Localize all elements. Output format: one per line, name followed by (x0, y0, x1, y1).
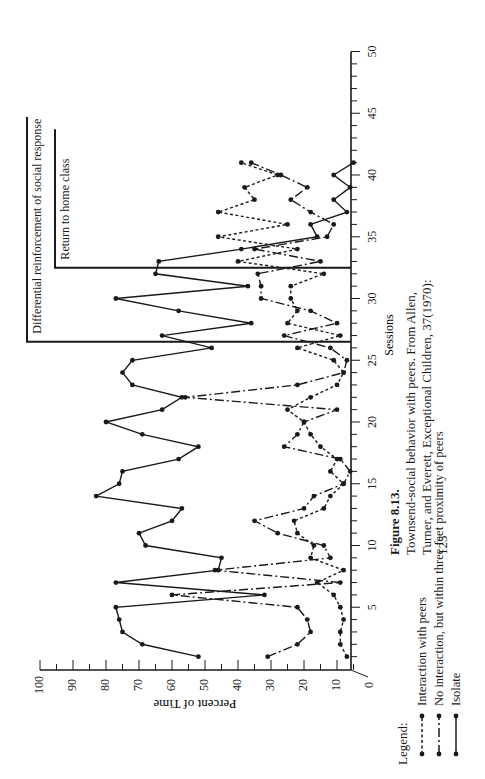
data-point (216, 210, 221, 215)
data-point (295, 432, 300, 437)
data-point (120, 370, 125, 375)
data-point (335, 383, 340, 388)
data-point (295, 383, 300, 388)
data-point (246, 284, 251, 289)
data-point (308, 395, 313, 400)
data-point (114, 605, 119, 610)
legend-marker (420, 752, 425, 757)
x-tick-label: 45 (365, 107, 379, 119)
data-point (318, 444, 323, 449)
data-point (219, 555, 224, 560)
y-axis-label: Percent of Time (153, 697, 236, 712)
data-point (130, 383, 135, 388)
data-point (176, 457, 181, 462)
x-tick-label: 25 (365, 354, 379, 366)
data-point (130, 358, 135, 363)
data-point (153, 271, 158, 276)
data-point (295, 531, 300, 536)
data-point (216, 234, 221, 239)
data-point (196, 444, 201, 449)
data-point (328, 469, 333, 474)
data-point (338, 580, 343, 585)
data-point (285, 222, 290, 227)
data-point (176, 308, 181, 313)
data-point (338, 333, 343, 338)
data-point (236, 259, 241, 264)
data-point (328, 494, 333, 499)
y-tick-label: 90 (65, 679, 79, 691)
data-point (282, 333, 287, 338)
phase-change-line (27, 117, 351, 342)
data-point (104, 420, 109, 425)
phase-change-line (55, 129, 351, 267)
data-point (308, 432, 313, 437)
caption-line-3: 123 (435, 215, 451, 555)
data-point (117, 617, 122, 622)
phase-change-lines: Differential reinforcement of social res… (27, 117, 351, 342)
data-point (209, 346, 214, 351)
legend-title: Legend: (395, 722, 410, 765)
x-tick-label: 30 (365, 293, 379, 305)
y-tick-label: 100 (32, 676, 46, 694)
y-tick-label: 0 (362, 682, 376, 688)
y-tick-label: 50 (197, 679, 211, 691)
data-point (170, 518, 175, 523)
data-point (275, 173, 280, 178)
data-point (305, 185, 310, 190)
x-tick-label: 10 (365, 540, 379, 552)
data-point (213, 568, 218, 573)
data-point (325, 234, 330, 239)
y-tick-label: 30 (263, 679, 277, 691)
data-point (348, 185, 353, 190)
data-point (196, 654, 201, 659)
data-point (345, 210, 350, 215)
legend-marker (454, 752, 459, 757)
data-point (308, 210, 313, 215)
data-point (275, 531, 280, 536)
data-point (239, 160, 244, 165)
axes: 5101520253035404550010203040506070809010… (32, 46, 379, 695)
data-point (341, 370, 346, 375)
data-point (252, 197, 257, 202)
data-point (262, 593, 267, 598)
data-point (338, 605, 343, 610)
data-point (295, 346, 300, 351)
data-point (302, 506, 307, 511)
data-point (249, 321, 254, 326)
data-point (295, 642, 300, 647)
data-point (288, 197, 293, 202)
figure-number: Figure 8.13. (387, 215, 403, 555)
data-point (351, 160, 356, 165)
data-point (117, 481, 122, 486)
y-tick-label: 60 (164, 679, 178, 691)
legend-marker (420, 714, 425, 719)
data-point (308, 222, 313, 227)
data-point (308, 555, 313, 560)
series-line (172, 163, 350, 657)
phase-label: Differential reinforcement of social res… (30, 119, 44, 334)
data-point (239, 247, 244, 252)
data-point (338, 630, 343, 635)
data-point (341, 617, 346, 622)
data-point (285, 321, 290, 326)
x-tick-label: 20 (365, 416, 379, 428)
x-tick-label: 5 (365, 604, 379, 610)
x-tick-label: 35 (365, 231, 379, 243)
data-point (341, 481, 346, 486)
data-point (160, 407, 165, 412)
data-point (288, 296, 293, 301)
y-tick-label: 80 (98, 679, 112, 691)
x-tick-label: 50 (365, 46, 379, 58)
data-point (331, 358, 336, 363)
data-point (295, 605, 300, 610)
data-point (183, 395, 188, 400)
data-point (328, 346, 333, 351)
data-point (302, 420, 307, 425)
legend-marker (437, 752, 442, 757)
data-point (295, 308, 300, 313)
data-point (249, 160, 254, 165)
data-point (312, 543, 317, 548)
data-point (335, 321, 340, 326)
data-point (282, 444, 287, 449)
data-point (265, 654, 270, 659)
